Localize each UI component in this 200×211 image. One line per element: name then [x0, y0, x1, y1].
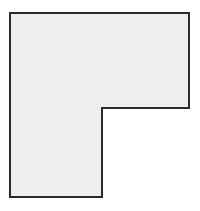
figure-canvas [0, 0, 200, 211]
l-shape-figure [0, 0, 200, 211]
